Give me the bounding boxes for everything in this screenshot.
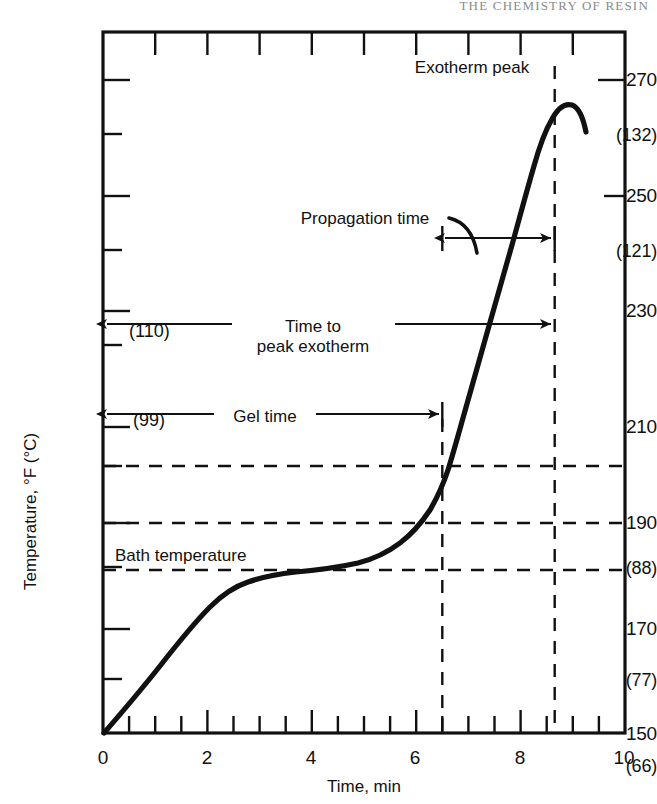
propagation-time-leader [449,218,477,253]
exotherm-curve [104,105,586,733]
horizontal-reference-lines [103,466,625,570]
x-axis-ticks [129,710,599,733]
vertical-reference-lines [442,66,554,733]
top-axis-ticks [155,32,573,55]
figure-root: THE CHEMISTRY OF RESIN 270 (132) 250 (12… [0,0,657,804]
chart-canvas [0,0,657,804]
right-axis-ticks [598,80,625,196]
y-axis-ticks [103,80,130,679]
plot-frame [103,32,625,733]
